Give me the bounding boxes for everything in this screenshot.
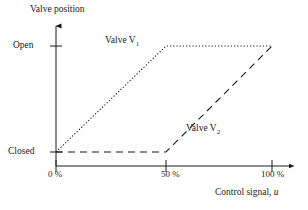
curve-label-v1-text: Valve V — [105, 35, 136, 45]
curve-label-v1-subscript: 1 — [136, 40, 140, 48]
y-tick-label-closed: Closed — [8, 147, 34, 157]
x-tick-label-0: 0 % — [48, 170, 62, 179]
curve-label-valve-v2: Valve V2 — [186, 124, 220, 136]
x-tick-label-50: 50 % — [161, 170, 180, 179]
curve-label-v2-text: Valve V — [186, 123, 217, 133]
x-axis-title-text: Control signal, — [215, 187, 274, 197]
valve-split-range-figure: Valve position Control signal, u Open Cl… — [0, 0, 308, 210]
x-axis-title: Control signal, u — [215, 188, 279, 198]
x-axis-title-symbol: u — [274, 187, 279, 197]
curve-label-valve-v1: Valve V1 — [105, 36, 139, 48]
y-axis-title: Valve position — [30, 5, 85, 15]
x-tick-label-100: 100 % — [261, 170, 284, 179]
y-tick-label-open: Open — [13, 41, 34, 51]
series-valve-v1 — [56, 46, 272, 152]
series-valve-v2 — [56, 46, 272, 152]
curve-label-v2-subscript: 2 — [217, 128, 221, 136]
